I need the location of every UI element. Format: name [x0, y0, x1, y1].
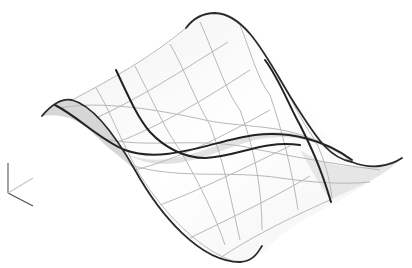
x-axis-line [8, 193, 33, 206]
axis-triad [8, 163, 33, 206]
y-axis-line [8, 178, 33, 193]
surface-body [42, 13, 402, 262]
3d-viewport[interactable] [0, 0, 412, 268]
surface-render [0, 0, 412, 268]
